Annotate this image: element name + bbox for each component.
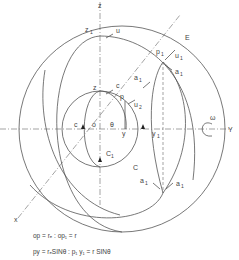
p1-sub: 1	[161, 51, 164, 57]
a1-top-sub: 1	[180, 71, 183, 77]
a1-top-label: a	[175, 68, 179, 75]
z-axis-label: z	[98, 2, 102, 9]
equation-line-2: py = rₑSINθ : p₁ y₁ = r SINθ	[33, 248, 111, 256]
a-lower-left-label: a	[140, 177, 144, 184]
c-top-label: c	[116, 82, 120, 89]
c-left-label: c	[74, 121, 78, 128]
E-label: E	[185, 34, 190, 41]
equation-line-1: op = rₑ : op₁ = r	[33, 232, 77, 240]
z1-sub: 1	[90, 29, 93, 35]
y1-marker	[141, 124, 145, 129]
a-lower-right-sub: 1	[181, 183, 184, 189]
curve-C	[151, 62, 163, 193]
u1-sub: 1	[180, 55, 183, 61]
c1-marker	[98, 157, 102, 162]
a-lower-left-arrow	[153, 183, 160, 189]
flow-geometry-diagram: z Y x z 1 u z c p 1 E u 1 a 1 a 1 p u 2 …	[0, 0, 239, 260]
u2-label: u	[134, 101, 138, 108]
omega-label: ω	[210, 114, 216, 121]
x-axis-diagonal	[18, 15, 180, 218]
curve-right	[163, 62, 185, 193]
y1-label: y	[152, 130, 156, 138]
a-lower-left-sub: 1	[145, 180, 148, 186]
a1-mid-label: a	[134, 74, 138, 81]
u2-sub: 2	[139, 104, 142, 110]
u1-label: u	[175, 52, 179, 59]
y1-sub: 1	[157, 133, 160, 139]
a-lower-right-label: a	[176, 180, 180, 187]
o-label: o	[92, 121, 96, 128]
a1-mid-sub: 1	[139, 77, 142, 83]
omega-rotation-arrow	[202, 123, 212, 136]
C-label: C	[133, 164, 138, 171]
y-label: y	[122, 130, 126, 138]
u-top-label: u	[116, 27, 120, 34]
C1-sub: 1	[111, 153, 114, 159]
outer-meridian-left	[57, 36, 122, 232]
y-axis-label: Y	[228, 126, 233, 133]
lower-arc	[30, 185, 163, 218]
z1-label: z	[85, 26, 89, 33]
a-lower-right-arrow	[166, 183, 173, 189]
x-axis-label: x	[14, 216, 18, 223]
a1-mid-arrow	[143, 82, 150, 88]
p1-label: p	[156, 48, 160, 56]
u1-arrow	[165, 50, 175, 60]
theta-label: θ	[110, 121, 114, 128]
p-label: p	[120, 93, 124, 101]
z-label: z	[93, 84, 97, 91]
